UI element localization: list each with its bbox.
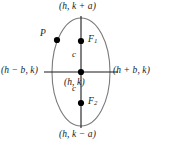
point-p-label: P: [40, 29, 46, 39]
focus-1-label-subscript: 1: [94, 37, 97, 44]
center-point-dot: [78, 69, 84, 75]
focus-2-label-subscript: 2: [94, 99, 97, 106]
focus-1-dot: [78, 38, 84, 44]
left-covertex-label: (h − b, k): [1, 66, 38, 76]
ellipse-figure: (h, k + a) (h, k − a) (h − b, k) (h + b,…: [0, 0, 179, 145]
c-distance-lower-label: c: [72, 84, 76, 93]
focus-1-label: F1: [88, 35, 97, 45]
top-vertex-label: (h, k + a): [59, 2, 96, 12]
focus-2-label: F2: [88, 97, 97, 107]
right-covertex-label: (h + b, k): [113, 66, 150, 76]
bottom-vertex-label: (h, k − a): [59, 130, 96, 140]
c-distance-upper-label: c: [72, 50, 76, 59]
focus-2-dot: [78, 100, 84, 106]
point-p-dot: [54, 37, 60, 43]
